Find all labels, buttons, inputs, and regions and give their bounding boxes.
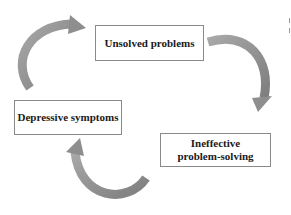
node-depressive-symptoms: Depressive symptoms [14,100,122,135]
node-unsolved-problems: Unsolved problems [95,25,204,61]
node-label: Unsolved problems [105,37,195,50]
node-label: Depressive symptoms [18,111,119,124]
edge-mark [289,18,290,23]
arrow-depressive-to-unsolved [22,15,86,88]
node-label: Ineffective problem-solving [171,137,261,163]
node-ineffective-problem-solving: Ineffective problem-solving [160,133,271,167]
arrow-ineffective-to-depressive [66,138,146,194]
arrow-unsolved-to-ineffective [208,39,272,112]
edge-mark [289,28,290,33]
